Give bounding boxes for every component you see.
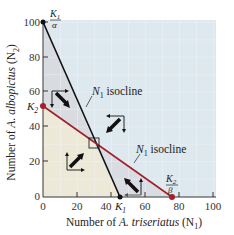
xtick-60: 60 bbox=[140, 200, 152, 212]
competition-isocline-chart: 100 80 60 40 20 0 0 20 40 60 80 100 bbox=[0, 0, 234, 235]
x-axis-label: Number of A. triseriatus (N1) bbox=[34, 216, 234, 231]
k2-beta-label-den: β bbox=[167, 185, 173, 195]
k2-axis-label: K2 bbox=[26, 100, 38, 115]
k1-point bbox=[118, 195, 123, 200]
ytick-60: 60 bbox=[29, 85, 41, 97]
ytick-40: 40 bbox=[29, 120, 41, 132]
k1-alpha-label-den: α bbox=[52, 20, 57, 30]
xtick-0: 0 bbox=[40, 200, 46, 212]
y-axis-label: Number of A. albopictus (N2) bbox=[5, 51, 20, 181]
xtick-20: 20 bbox=[72, 200, 84, 212]
ytick-20: 20 bbox=[29, 155, 41, 167]
xtick-80: 80 bbox=[174, 200, 186, 212]
ytick-80: 80 bbox=[29, 51, 41, 63]
xtick-40: 40 bbox=[101, 200, 113, 212]
xtick-100: 100 bbox=[205, 200, 222, 212]
k1-alpha-point bbox=[41, 20, 46, 25]
ytick-100: 100 bbox=[24, 16, 41, 28]
k2-point bbox=[40, 103, 46, 109]
k1-axis-label: K1 bbox=[114, 200, 126, 215]
